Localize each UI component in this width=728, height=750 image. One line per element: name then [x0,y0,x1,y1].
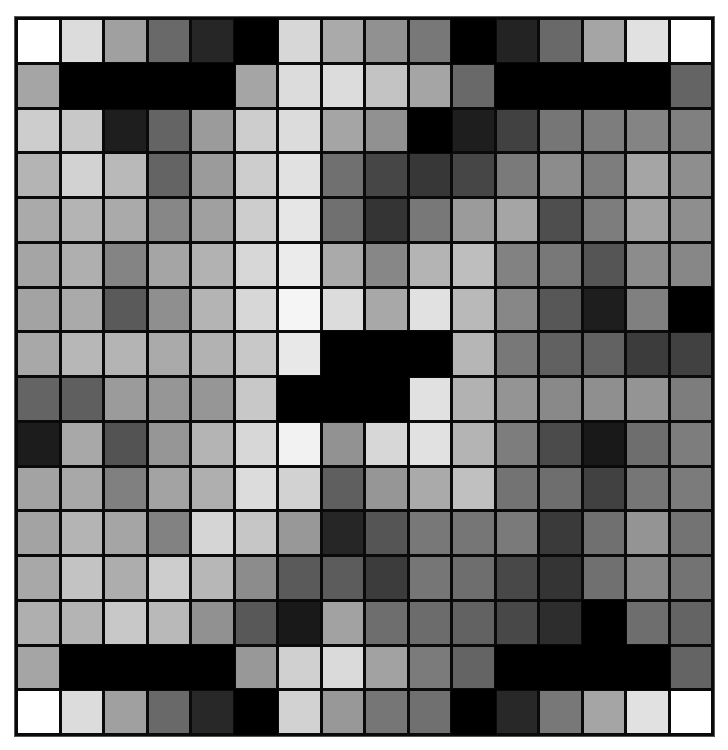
grid-cell [149,199,190,241]
grid-cell [192,65,233,107]
grid-cell [62,110,103,152]
grid-cell [671,244,712,286]
grid-cell [236,154,277,196]
grid-cell [453,199,494,241]
grid-cell [236,378,277,420]
grid-cell [671,691,712,733]
grid-cell [323,154,364,196]
grid-cell [323,423,364,465]
grid-cell [410,199,451,241]
grid-cell [671,154,712,196]
grid-cell [366,691,407,733]
grid-cell [323,199,364,241]
grid-cell [62,20,103,62]
grid-cell [410,647,451,689]
grid-cell [279,512,320,554]
grid-cell [105,20,146,62]
grid-cell [366,647,407,689]
grid-cell [18,468,59,510]
grid-cell [279,647,320,689]
grid-cell [627,468,668,510]
grid-cell [497,378,538,420]
grid-cell [497,647,538,689]
grid-cell [366,423,407,465]
grid-cell [671,468,712,510]
grid-cell [410,512,451,554]
grid-cell [627,244,668,286]
grid-cell [18,154,59,196]
grid-cell [453,512,494,554]
grid-cell [366,512,407,554]
grid-cell [323,647,364,689]
grid-cell [18,423,59,465]
grid-cell [62,333,103,375]
grid-cell [366,20,407,62]
grid-cell [671,65,712,107]
grid-cell [453,602,494,644]
grid-cell [236,289,277,331]
grid-cell [366,244,407,286]
grid-cell [584,647,625,689]
grid-cell [279,333,320,375]
grid-cell [584,20,625,62]
grid-cell [366,110,407,152]
grid-cell [540,423,581,465]
grid-cell [236,468,277,510]
grid-cell [366,333,407,375]
grid-cell [584,333,625,375]
grid-cell [236,199,277,241]
grid-cell [540,468,581,510]
grid-cell [584,289,625,331]
grid-cell [671,378,712,420]
grid-cell [279,378,320,420]
grid-cell [149,110,190,152]
grid-cell [410,378,451,420]
grid-cell [540,199,581,241]
grid-cell [410,691,451,733]
grid-cell [192,20,233,62]
grid-cell [192,468,233,510]
grid-cell [410,65,451,107]
grid-cell [627,333,668,375]
grid-cell [584,691,625,733]
grid-cell [323,468,364,510]
grid-cell [279,199,320,241]
grid-cell [105,199,146,241]
grid-cell [18,557,59,599]
grid-cell [236,423,277,465]
grid-cell [410,154,451,196]
grid-cell [584,378,625,420]
grid-cell [18,244,59,286]
grid-cell [149,602,190,644]
grid-cell [323,20,364,62]
grid-cell [540,289,581,331]
grid-cell [366,557,407,599]
grid-cell [453,65,494,107]
grid-cell [671,647,712,689]
grid-cell [453,647,494,689]
grid-cell [149,333,190,375]
grid-cell [497,244,538,286]
grid-cell [62,244,103,286]
grid-cell [149,647,190,689]
grid-cell [453,289,494,331]
grid-cell [279,602,320,644]
grid-cell [149,244,190,286]
grid-cell [497,20,538,62]
grid-cell [192,602,233,644]
grid-cell [236,110,277,152]
grid-cell [497,557,538,599]
grid-cell [671,602,712,644]
grid-cell [540,691,581,733]
grid-cell [149,691,190,733]
grid-cell [410,557,451,599]
grid-cell [627,154,668,196]
grid-cell [192,512,233,554]
grid-cell [149,378,190,420]
grid-cell [149,20,190,62]
grid-cell [671,20,712,62]
grid-cell [236,20,277,62]
grid-cell [410,110,451,152]
grid-cell [149,557,190,599]
grid-cell [192,423,233,465]
